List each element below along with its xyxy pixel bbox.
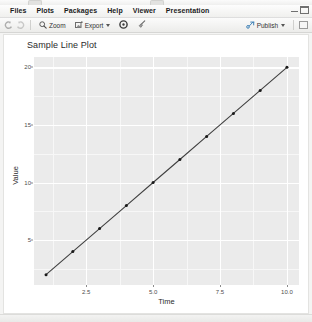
data-point [98,227,101,230]
plots-pane: Files Plots Packages Help Viewer Present… [0,0,312,322]
remove-plot-icon [119,20,128,30]
menu-help[interactable]: Help [102,5,128,17]
toolbar-right-group: Publish [243,18,308,32]
back-arrow-icon[interactable] [4,21,13,30]
y-tick-mark [31,124,33,125]
export-label: Export [85,22,104,29]
broom-clear-icon [137,20,146,30]
clear-plots-button[interactable] [134,18,149,32]
export-image-icon [75,21,83,30]
data-point [152,181,155,184]
x-axis-ticks: 2.55.07.510.0 [34,287,299,297]
data-point [45,273,48,276]
plot-canvas: Sample Line Plot 5101520 2.55.07.510.0 T… [3,34,309,314]
x-tick-label: 5.0 [149,289,157,295]
toolbar-separator-2 [293,20,294,30]
data-point [232,112,235,115]
window-bottom-edge [0,314,312,322]
publish-icon [246,21,255,30]
data-point [178,158,181,161]
chevron-down-icon[interactable] [281,24,285,27]
x-tick-label: 10.0 [281,289,293,295]
menu-packages[interactable]: Packages [59,5,102,17]
plots-toolbar: Zoom Export [0,18,312,33]
magnifier-icon [39,21,47,30]
menu-presentation[interactable]: Presentation [161,5,215,17]
menu-bar: Files Plots Packages Help Viewer Present… [0,5,312,18]
publish-button[interactable]: Publish [243,18,288,32]
x-tick-label: 2.5 [82,289,90,295]
menu-viewer[interactable]: Viewer [128,5,161,17]
chart-title: Sample Line Plot [27,40,97,50]
x-tick-mark [86,285,87,287]
y-tick-mark [31,182,33,183]
zoom-label: Zoom [49,22,66,29]
remove-plot-button[interactable] [116,18,131,32]
chart-series [34,57,299,285]
data-point [125,204,128,207]
y-tick-mark [31,240,33,241]
zoom-button[interactable]: Zoom [36,18,69,32]
data-point [285,66,288,69]
toolbar-separator-1 [30,20,31,30]
menu-files[interactable]: Files [5,5,31,17]
x-tick-mark [287,285,288,287]
menu-plots[interactable]: Plots [31,5,59,17]
publish-label: Publish [257,22,278,29]
window-minimize-icon[interactable] [291,7,298,13]
window-maximize-icon[interactable] [300,6,309,14]
y-axis-label: Value [11,146,20,206]
panel-layout-icon[interactable] [299,21,308,29]
x-tick-mark [153,285,154,287]
data-point [205,135,208,138]
export-button[interactable]: Export [72,18,114,32]
x-axis-tick-marks [34,285,299,288]
data-point [71,250,74,253]
y-tick-mark [31,67,33,68]
x-tick-mark [220,285,221,287]
chevron-down-icon[interactable] [106,24,110,27]
window-controls [291,6,309,14]
data-point [259,89,262,92]
forward-arrow-icon[interactable] [16,21,25,30]
chart-panel [34,57,299,285]
x-tick-label: 7.5 [216,289,224,295]
x-axis-label: Time [34,297,299,306]
